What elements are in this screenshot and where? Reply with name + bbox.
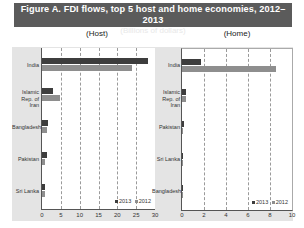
category-label: India (152, 62, 180, 69)
gridline (226, 49, 227, 210)
x-tick-label: 10 (76, 212, 83, 218)
gridline (248, 49, 249, 210)
host-panel-title: (Host) (42, 29, 152, 38)
bar-2012 (42, 95, 60, 101)
gridline (204, 49, 205, 210)
x-tick-label: 2 (202, 212, 205, 218)
bar-2013 (182, 89, 186, 95)
category-label: Bangladesh (12, 124, 39, 131)
bar-2012 (182, 160, 183, 166)
gridline (117, 48, 118, 209)
bar-2013 (42, 88, 53, 94)
category-label: Sri Lanka (12, 188, 39, 195)
gridline (99, 48, 100, 209)
category-label: India (12, 62, 39, 69)
x-tick-label: 8 (268, 212, 271, 218)
figure-title-bar: Figure A. FDI flows, top 5 host and home… (14, 3, 292, 27)
category-label: Bangladesh (152, 188, 180, 195)
gridline (61, 48, 62, 209)
bar-2013 (42, 152, 47, 158)
bar-2012 (42, 65, 132, 71)
bar-2012 (182, 66, 276, 72)
bar-2013 (182, 121, 184, 127)
bar-2013 (42, 120, 48, 126)
bar-2013 (42, 184, 45, 190)
bar-2013 (182, 185, 183, 191)
category-label: Pakistan (152, 124, 180, 131)
x-tick-label: 0 (40, 212, 43, 218)
bar-2012 (42, 191, 45, 197)
bar-2012 (182, 128, 183, 134)
category-label: IslamicRep. of Iran (12, 89, 39, 109)
x-tick-label: 10 (289, 212, 296, 218)
host-plot-area: 2013 2012 (41, 48, 155, 210)
bar-2013 (42, 58, 148, 64)
bar-2012 (42, 127, 47, 133)
home-plot-area: 2013 2012 (181, 48, 293, 211)
category-label: Sri Lanka (152, 156, 180, 163)
x-tick-label: 4 (224, 212, 227, 218)
legend: 2013 2012 (115, 198, 151, 204)
x-tick-label: 15 (95, 212, 102, 218)
bar-2012 (42, 159, 45, 165)
gridline (80, 48, 81, 209)
x-tick-label: 30 (152, 212, 159, 218)
x-tick-label: 25 (133, 212, 140, 218)
bar-2013 (182, 59, 201, 65)
gridline (136, 48, 137, 209)
category-label: IslamicRep. of Iran (152, 89, 180, 109)
category-label: Pakistan (12, 156, 39, 163)
x-tick-label: 5 (59, 212, 62, 218)
legend: 2013 2012 (252, 199, 288, 205)
x-tick-label: 20 (114, 212, 121, 218)
bar-2012 (182, 96, 186, 102)
home-panel-title: (Home) (182, 29, 292, 38)
gridline (270, 49, 271, 210)
bar-2012 (182, 192, 183, 198)
bar-2013 (182, 153, 183, 159)
x-tick-label: 0 (180, 212, 183, 218)
figure-title: Figure A. FDI flows, top 5 host and home… (14, 3, 292, 26)
x-tick-label: 6 (246, 212, 249, 218)
